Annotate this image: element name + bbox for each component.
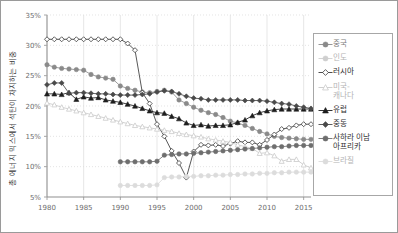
x-tick-label: 1995 [148,204,166,212]
legend-item-1[interactable]: 중국 [318,39,389,49]
legend-item-8[interactable]: 브라질 [318,156,389,166]
legend-item-3[interactable]: 러시아 [318,67,389,77]
legend-item-2[interactable]: 인도 [318,53,389,63]
x-tick-label: 1985 [75,204,93,212]
chart-legend: 중국인도러시아미국- 캐나다유럽중동사하라 이남 아프리카브라질 [313,33,393,196]
y-tick-label: 15% [25,133,41,141]
y-tick-label: 5% [30,194,41,202]
legend-marker-icon [318,54,333,63]
legend-item-label: 중국 [333,39,347,48]
legend-marker-icon [318,68,333,77]
y-tick-label: 25% [25,72,41,80]
legend-marker-icon [318,106,333,115]
series-3 [45,37,314,180]
legend-item-label: 브라질 [333,156,354,165]
series-6 [45,80,314,110]
legend-item-label: 인도 [333,53,347,62]
legend-item-label: 유럽 [333,105,347,114]
legend-item-label: 중동 [333,119,347,128]
x-tick-label: 1980 [38,204,56,212]
x-tick-label: 1990 [111,204,129,212]
x-tick-label: 2010 [258,204,276,212]
legend-marker-icon [318,83,333,92]
legend-marker-icon [318,134,333,143]
legend-item-7[interactable]: 사하라 이남 아프리카 [318,133,389,152]
legend-item-5[interactable]: 유럽 [318,105,389,115]
legend-marker-icon [318,157,333,166]
legend-item-label: 러시아 [333,67,354,76]
y-tick-label: 10% [25,163,41,171]
legend-item-label: 사하라 이남 아프리카 [333,133,370,152]
x-tick-label: 2015 [295,204,313,212]
series-8 [118,170,313,188]
legend-marker-icon [318,120,333,129]
x-tick-label: 2000 [185,204,203,212]
legend-marker-icon [318,40,333,49]
legend-item-6[interactable]: 중동 [318,119,389,129]
y-tick-label: 30% [25,42,41,50]
legend-item-4[interactable]: 미국- 캐나다 [318,82,389,101]
chart-container: 총 에너지 믹스에서 석탄이 차지하는 비중 5%10%15%20%25%30%… [0,0,398,233]
y-tick-label: 35% [25,12,41,20]
legend-item-label: 미국- 캐나다 [333,82,354,101]
x-tick-label: 2005 [221,204,239,212]
y-tick-label: 20% [25,103,41,111]
